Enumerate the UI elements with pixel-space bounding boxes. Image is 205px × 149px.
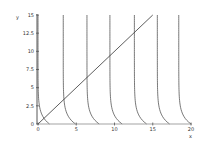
y-tick-label: 2.5 — [26, 103, 34, 109]
x-axis-label: x — [189, 133, 192, 139]
y-tick-label: 10 — [28, 48, 34, 54]
x-tick-label: 10 — [111, 126, 117, 132]
y-tick-label: 12.5 — [23, 30, 34, 36]
chart: 02.557.51012.515 05101520 y x — [0, 0, 205, 149]
x-tick-label: 15 — [150, 126, 156, 132]
decay-curve — [110, 15, 122, 124]
y-tick-label: 0 — [31, 121, 34, 127]
decay-curve — [179, 15, 191, 124]
decay-curve — [157, 15, 169, 124]
y-tick-label: 15 — [28, 12, 34, 18]
x-tick-label: 0 — [36, 126, 39, 132]
y-axis-label: y — [16, 14, 19, 21]
x-tick-label: 20 — [188, 126, 194, 132]
decay-curve — [38, 15, 49, 124]
y-tick-label: 5 — [31, 84, 34, 90]
x-tick-label: 5 — [75, 126, 78, 132]
decay-curve — [134, 15, 146, 124]
decay-curve — [87, 15, 99, 124]
diagonal-line — [38, 15, 153, 124]
decay-curve — [63, 15, 75, 124]
decay-curves — [38, 15, 191, 124]
y-tick-label: 7.5 — [26, 66, 34, 72]
